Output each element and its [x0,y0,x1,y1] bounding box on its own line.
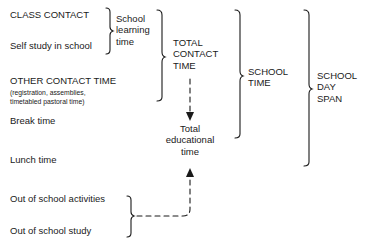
arrowhead-down [186,112,194,121]
break-time-label: Break time [10,115,55,126]
self-study-label: Self study in school [10,40,92,51]
other-contact-note: (registration, assemblies, timetabled pa… [10,88,86,106]
out-of-school-study-label: Out of school study [10,225,91,236]
brace-school-day-span [304,10,312,166]
class-contact-label: CLASS CONTACT [10,9,89,20]
school-day-span-label: SCHOOL DAY SPAN [317,70,357,104]
school-time-diagram: CLASS CONTACT Self study in school OTHER… [0,0,366,249]
other-contact-label: OTHER CONTACT TIME [10,75,116,86]
lunch-time-label: Lunch time [10,154,56,165]
school-time-label: SCHOOL TIME [248,66,288,89]
school-learning-time-label: School learning time [116,13,150,47]
brace-total-contact [157,10,165,101]
brace-school-time [235,10,243,138]
dashed-connector-up [137,180,190,216]
arrowhead-up [186,168,194,177]
out-of-school-activities-label: Out of school activities [10,193,105,204]
total-contact-time-label: TOTAL CONTACT TIME [173,37,218,71]
total-educational-time-label: Total educational time [160,123,220,157]
brace-out-of-school [127,196,134,237]
brace-school-learning [106,8,113,54]
